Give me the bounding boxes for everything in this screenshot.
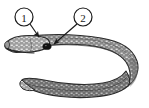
figure-container: 1 2 bbox=[0, 0, 149, 108]
eel-snout bbox=[5, 41, 10, 49]
eel-body-group bbox=[5, 35, 138, 98]
eel-eye bbox=[43, 43, 51, 49]
eel-eye-highlight bbox=[45, 45, 47, 46]
eel-lower-body bbox=[21, 71, 129, 98]
callout-2-label: 2 bbox=[80, 12, 86, 24]
callout-1-label: 1 bbox=[21, 12, 27, 24]
callout-1-group[interactable]: 1 bbox=[15, 8, 39, 37]
eel-illustration: 1 2 bbox=[0, 0, 149, 108]
